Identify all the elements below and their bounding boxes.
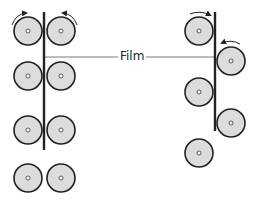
roller-axle-icon xyxy=(59,176,63,180)
roller-axle-icon xyxy=(26,176,30,180)
right-roller-configuration xyxy=(185,12,245,167)
roller-axle-icon xyxy=(59,128,63,132)
roller-axle-icon xyxy=(26,74,30,78)
roller-axle-icon xyxy=(26,29,30,33)
roller-axle-icon xyxy=(197,29,201,33)
roller-axle-icon xyxy=(59,74,63,78)
roller-axle-icon xyxy=(197,90,201,94)
rotation-arrow-icon xyxy=(190,12,210,15)
rotation-arrow-icon xyxy=(222,41,240,44)
roller-axle-icon xyxy=(197,151,201,155)
roller-diagram: Film xyxy=(0,0,260,209)
diagram-canvas xyxy=(0,0,260,209)
roller-axle-icon xyxy=(229,121,233,125)
left-roller-configuration xyxy=(14,12,75,192)
roller-axle-icon xyxy=(59,29,63,33)
film-label: Film xyxy=(118,49,146,63)
roller-axle-icon xyxy=(229,59,233,63)
roller-axle-icon xyxy=(26,128,30,132)
